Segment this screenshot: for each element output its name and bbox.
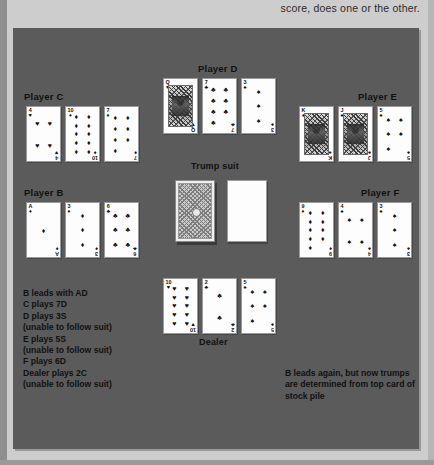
card-pip: ♦ bbox=[308, 235, 312, 242]
card-pip: ♦ bbox=[308, 226, 312, 233]
card-pips: ♣♣♣♣♣♣ bbox=[109, 208, 134, 252]
card-pip: ♥ bbox=[172, 311, 176, 318]
card-pip: ♠ bbox=[347, 238, 351, 245]
card-pip: ♦ bbox=[308, 218, 312, 225]
card-pip: ♦ bbox=[87, 113, 91, 120]
note-line: B leads with AD bbox=[23, 288, 112, 299]
note-line: (unable to follow suit) bbox=[23, 322, 112, 333]
hand-dealer[interactable]: 10♥10♥♥♥♥♥♥♥♥♥♥♥2♣2♣♣♣5♠5♠♠♠♠♠♠ bbox=[163, 278, 276, 334]
card-pip: ♦ bbox=[113, 147, 117, 154]
note-line: C plays 7D bbox=[23, 299, 112, 310]
playing-card[interactable]: J♠J♠ bbox=[338, 106, 373, 162]
card-pip: ♣ bbox=[113, 241, 118, 248]
card-table: Player C Player D Player E Player B Play… bbox=[13, 28, 419, 449]
hand-player-d[interactable]: Q♥Q♥7♣7♣♣♣♣♣♣♣♣3♠3♠♠♠♠ bbox=[163, 78, 276, 134]
page-left-edge bbox=[0, 0, 7, 465]
card-pip: ♣ bbox=[211, 86, 216, 93]
card-pip: ♦ bbox=[81, 212, 85, 219]
playing-card[interactable]: 4♥4♥♥♥♥♥ bbox=[26, 106, 61, 162]
card-pip: ♦ bbox=[113, 125, 117, 132]
card-pips: ♥♥♥♥♥♥♥♥♥♥ bbox=[168, 284, 193, 328]
book-page: score, does one or the other. Player C P… bbox=[0, 0, 434, 465]
playing-card[interactable]: 7♦7♦♦♦♦♦♦♦♦ bbox=[104, 106, 139, 162]
card-pip: ♦ bbox=[74, 122, 78, 129]
playing-card[interactable]: A♦A♦♦ bbox=[26, 202, 61, 258]
card-pip: ♣ bbox=[223, 97, 228, 104]
note-line: (unable to follow suit) bbox=[23, 345, 112, 356]
note-line: stock pile bbox=[285, 391, 415, 402]
seat-label-dealer: Dealer bbox=[199, 337, 228, 347]
card-pip: ♠ bbox=[393, 226, 397, 233]
playing-card[interactable]: 3♠3♠♠♠♠ bbox=[377, 202, 412, 258]
card-pip: ♥ bbox=[172, 285, 176, 292]
card-pip: ♦ bbox=[42, 227, 46, 234]
hand-player-b[interactable]: A♦A♦♦3♦3♦♦♦♦6♣6♣♣♣♣♣♣♣ bbox=[26, 202, 139, 258]
trump-suit-label: Trump suit bbox=[191, 161, 239, 171]
card-pip: ♦ bbox=[87, 139, 91, 146]
card-pips: ♠♠♠♠♠ bbox=[382, 112, 407, 156]
card-pip: ♦ bbox=[126, 125, 130, 132]
stock-pile[interactable] bbox=[175, 180, 215, 242]
card-back-icon bbox=[175, 180, 215, 242]
card-pip: ♣ bbox=[113, 212, 118, 219]
card-pip: ♠ bbox=[360, 238, 364, 245]
note-trump-from-stock: B leads again, but now trumpsare determi… bbox=[285, 368, 415, 402]
hand-player-f[interactable]: 9♦9♦♦♦♦♦♦♦♦♦♦4♠4♠♠♠♠♠3♠3♠♠♠♠ bbox=[299, 202, 412, 258]
page-right-edge bbox=[428, 0, 434, 465]
note-play-sequence: B leads with ADC plays 7DD plays 3S (una… bbox=[23, 288, 112, 391]
playing-card[interactable]: Q♥Q♥ bbox=[163, 78, 198, 134]
playing-card[interactable]: 3♠3♠♠♠♠ bbox=[241, 78, 276, 134]
playing-card[interactable]: 7♣7♣♣♣♣♣♣♣♣ bbox=[202, 78, 237, 134]
card-pip: ♣ bbox=[125, 212, 130, 219]
playing-card[interactable]: 2♣2♣♣♣ bbox=[202, 278, 237, 334]
note-line: Dealer plays 2C bbox=[23, 368, 112, 379]
playing-card[interactable]: 9♦9♦♦♦♦♦♦♦♦♦♦ bbox=[299, 202, 334, 258]
card-pip: ♦ bbox=[87, 148, 91, 155]
card-pip: ♥ bbox=[185, 302, 189, 309]
card-pip: ♦ bbox=[321, 226, 325, 233]
card-pip: ♦ bbox=[113, 114, 117, 121]
card-pip: ♠ bbox=[257, 88, 261, 95]
card-pip: ♠ bbox=[250, 317, 254, 324]
card-pips: ♦♦♦♦♦♦♦♦♦♦ bbox=[70, 112, 95, 156]
card-pip: ♣ bbox=[211, 108, 216, 115]
playing-card[interactable]: 6♣6♣♣♣♣♣♣♣ bbox=[104, 202, 139, 258]
card-pips: ♣♣♣♣♣♣♣ bbox=[207, 84, 232, 128]
card-pip: ♣ bbox=[211, 97, 216, 104]
card-pip: ♠ bbox=[386, 130, 390, 137]
court-card-artwork bbox=[304, 113, 329, 155]
playing-card[interactable]: 10♦10♦♦♦♦♦♦♦♦♦♦♦ bbox=[65, 106, 100, 162]
card-pips: ♠♠♠♠♠ bbox=[246, 284, 271, 328]
seat-label-player-c: Player C bbox=[24, 91, 64, 102]
playing-card[interactable]: 5♠5♠♠♠♠♠♠ bbox=[241, 278, 276, 334]
card-pip: ♥ bbox=[48, 142, 52, 149]
card-pip: ♣ bbox=[217, 292, 222, 299]
card-pip: ♠ bbox=[250, 288, 254, 295]
card-pip: ♥ bbox=[185, 294, 189, 301]
trump-card-slot[interactable] bbox=[227, 180, 267, 242]
note-line: (unable to follow suit) bbox=[23, 379, 112, 390]
card-pip: ♦ bbox=[74, 139, 78, 146]
running-body-text: score, does one or the other. bbox=[281, 2, 420, 14]
card-pip: ♣ bbox=[223, 108, 228, 115]
playing-card[interactable]: 4♠4♠♠♠♠♠ bbox=[338, 202, 373, 258]
playing-card[interactable]: K♠K♠ bbox=[299, 106, 334, 162]
card-pips: ♦♦♦♦♦♦♦♦♦ bbox=[304, 208, 329, 252]
card-pip: ♠ bbox=[393, 212, 397, 219]
card-pip: ♠ bbox=[399, 116, 403, 123]
seat-label-player-f: Player F bbox=[361, 187, 400, 198]
playing-card[interactable]: 10♥10♥♥♥♥♥♥♥♥♥♥♥ bbox=[163, 278, 198, 334]
card-pips: ♥♥♥♥ bbox=[31, 112, 56, 156]
card-back-pattern bbox=[178, 183, 212, 239]
card-pip: ♠ bbox=[386, 116, 390, 123]
card-pip: ♥ bbox=[185, 311, 189, 318]
page-bottom-edge bbox=[0, 460, 434, 465]
playing-card[interactable]: 3♦3♦♦♦♦ bbox=[65, 202, 100, 258]
hand-player-e[interactable]: K♠K♠J♠J♠5♠5♠♠♠♠♠♠ bbox=[299, 106, 412, 162]
playing-card[interactable]: 5♠5♠♠♠♠♠♠ bbox=[377, 106, 412, 162]
card-pip: ♥ bbox=[172, 294, 176, 301]
card-pip: ♦ bbox=[87, 130, 91, 137]
card-pip: ♦ bbox=[308, 209, 312, 216]
card-pip: ♦ bbox=[321, 235, 325, 242]
hand-player-c[interactable]: 4♥4♥♥♥♥♥10♦10♦♦♦♦♦♦♦♦♦♦♦7♦7♦♦♦♦♦♦♦♦ bbox=[26, 106, 139, 162]
